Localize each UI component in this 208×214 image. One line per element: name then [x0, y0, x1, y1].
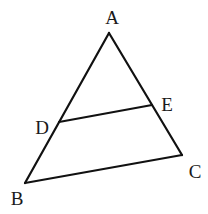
label-d: D — [35, 117, 49, 138]
label-c: C — [189, 161, 202, 182]
triangle-diagram: A B C D E — [0, 0, 208, 214]
label-e: E — [161, 94, 173, 115]
label-a: A — [105, 7, 119, 28]
segment-ab — [25, 33, 109, 183]
segment-bc — [25, 155, 182, 183]
label-b: B — [11, 188, 24, 209]
segment-de — [59, 105, 152, 122]
